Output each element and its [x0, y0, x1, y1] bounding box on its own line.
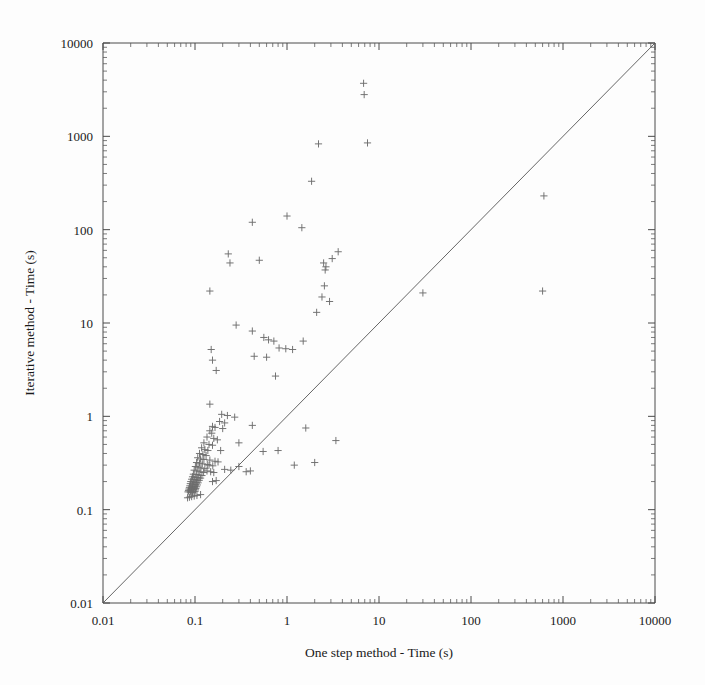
data-point [213, 367, 220, 374]
data-point [360, 80, 367, 87]
data-point [249, 422, 256, 429]
x-tick-label: 10 [373, 613, 386, 628]
data-point [539, 287, 546, 294]
x-axis-tick-labels: 0.010.1110100100010000 [92, 613, 672, 628]
data-point-markers [184, 80, 548, 502]
data-point [210, 469, 217, 476]
data-point [540, 192, 547, 199]
data-point [260, 448, 267, 455]
data-point [204, 447, 211, 454]
data-point [318, 293, 325, 300]
data-point [282, 345, 289, 352]
data-point [209, 478, 216, 485]
data-point [364, 139, 371, 146]
data-point [227, 467, 234, 474]
scatter-plot: 0.010.1110100100010000 0.010.11101001000… [0, 0, 705, 685]
data-point [308, 178, 315, 185]
data-point [201, 446, 208, 453]
data-point [315, 140, 322, 147]
data-point [219, 425, 226, 432]
data-point [300, 337, 307, 344]
data-point [283, 212, 290, 219]
data-point [216, 418, 223, 425]
data-point [205, 462, 212, 469]
data-point [302, 424, 309, 431]
y-tick-label: 100 [74, 223, 94, 238]
data-point [197, 491, 204, 498]
y-tick-label: 10000 [61, 36, 94, 51]
x-tick-label: 1000 [550, 613, 576, 628]
data-point [209, 357, 216, 364]
y-tick-label: 0.1 [77, 503, 93, 518]
data-point [233, 321, 240, 328]
data-point [263, 354, 270, 361]
data-point [243, 468, 250, 475]
identity-reference-line [103, 43, 655, 603]
data-point [321, 282, 328, 289]
data-point [272, 372, 279, 379]
x-axis-title: One step method - Time (s) [305, 645, 453, 660]
data-point [221, 466, 228, 473]
y-axis-title: Iterative method - Time (s) [22, 250, 37, 395]
data-point [214, 436, 221, 443]
data-point [256, 257, 263, 264]
data-point [217, 447, 224, 454]
data-point [231, 414, 238, 421]
chart-page: 0.010.1110100100010000 0.010.11101001000… [0, 0, 705, 685]
data-point [275, 344, 282, 351]
data-point [419, 289, 426, 296]
data-point [203, 433, 210, 440]
data-point [226, 259, 233, 266]
data-point [332, 437, 339, 444]
data-point [361, 91, 368, 98]
x-tick-label: 0.01 [92, 613, 115, 628]
data-point [251, 353, 258, 360]
x-tick-label: 10000 [639, 613, 672, 628]
x-tick-label: 1 [284, 613, 291, 628]
data-point [322, 266, 329, 273]
data-point [335, 248, 342, 255]
y-tick-label: 0.01 [70, 596, 93, 611]
x-tick-label: 0.1 [187, 613, 203, 628]
data-point [209, 442, 216, 449]
data-point [235, 439, 242, 446]
data-point [206, 401, 213, 408]
data-point [213, 477, 220, 484]
data-point [221, 419, 228, 426]
data-point [225, 250, 232, 257]
data-point [326, 298, 333, 305]
data-point [205, 441, 212, 448]
data-point [249, 219, 256, 226]
data-point [274, 447, 281, 454]
data-point [247, 467, 254, 474]
identity-line [103, 43, 655, 603]
data-point [329, 255, 336, 262]
y-tick-label: 10 [80, 316, 93, 331]
data-point [313, 309, 320, 316]
data-point [249, 327, 256, 334]
data-point [270, 337, 277, 344]
data-point [235, 463, 242, 470]
data-point [298, 224, 305, 231]
data-point [289, 346, 296, 353]
data-point [208, 346, 215, 353]
data-point [214, 458, 221, 465]
y-tick-label: 1 [87, 409, 94, 424]
x-tick-label: 100 [461, 613, 481, 628]
data-point [218, 411, 225, 418]
data-point [224, 412, 231, 419]
y-tick-label: 1000 [67, 129, 93, 144]
data-point [311, 459, 318, 466]
y-axis-tick-labels: 0.010.1110100100010000 [61, 36, 94, 611]
data-point [206, 287, 213, 294]
data-point [291, 462, 298, 469]
